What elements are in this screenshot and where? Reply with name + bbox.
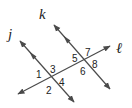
angle-2-label: 2 — [46, 85, 52, 96]
label-l: ℓ — [116, 40, 122, 56]
angle-1-label: 1 — [36, 69, 42, 80]
angle-3-label: 3 — [50, 64, 56, 75]
angle-8-label: 8 — [92, 59, 98, 70]
angle-4-label: 4 — [59, 77, 65, 88]
angle-7-label: 7 — [85, 47, 91, 58]
label-j: j — [6, 26, 12, 42]
label-k: k — [39, 6, 46, 22]
angle-5-label: 5 — [72, 53, 78, 64]
angle-6-label: 6 — [80, 66, 86, 77]
diagram-canvas: j k ℓ 1 3 2 4 5 7 6 8 — [0, 0, 132, 108]
